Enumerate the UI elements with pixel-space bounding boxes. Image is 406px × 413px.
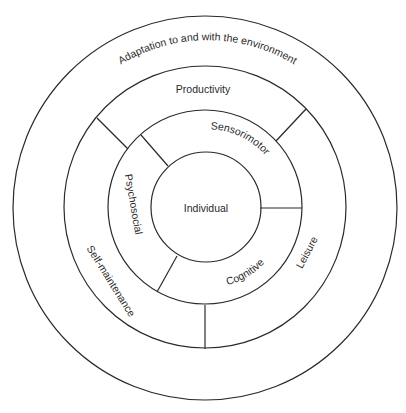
- label-sensorimotor-path: Sensorimotor: [210, 119, 273, 157]
- divider-sensorimotor-psychosocial: [141, 135, 168, 166]
- label-psychosocial: Psychosocial: [123, 173, 145, 235]
- divider-productivity-leisure: [276, 109, 306, 141]
- label-self-maintenance: Self-maintenance: [85, 243, 139, 319]
- label-environment: Adaptation to and with the environment: [116, 30, 300, 66]
- divider-psychosocial-cognitive: [157, 256, 177, 292]
- occupational-performance-diagram: Individual Productivity Adaptation to an…: [0, 0, 406, 413]
- divider-productivity-selfmaintenance: [97, 118, 128, 149]
- label-sensorimotor: Sensorimotor: [210, 119, 273, 157]
- label-productivity: Productivity: [176, 83, 231, 95]
- label-individual: Individual: [184, 202, 228, 214]
- label-environment-path: Adaptation to and with the environment: [116, 30, 300, 66]
- label-cognitive-path: Cognitive: [224, 256, 266, 288]
- label-cognitive: Cognitive: [224, 256, 266, 288]
- label-leisure: Leisure: [293, 234, 320, 270]
